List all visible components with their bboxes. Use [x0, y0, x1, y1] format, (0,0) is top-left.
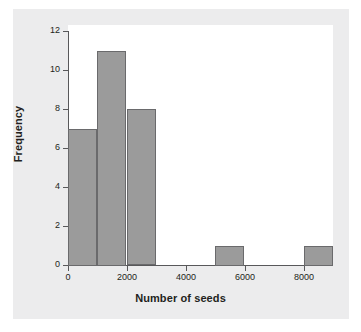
y-tick-mark: [63, 109, 68, 110]
x-axis-title: Number of seeds: [0, 292, 361, 304]
y-tick-label: 4: [55, 182, 60, 191]
y-tick-mark: [63, 70, 68, 71]
x-tick-mark: [68, 266, 69, 271]
y-tick-label: 8: [55, 104, 60, 113]
histogram-bar: [127, 109, 156, 265]
x-tick-label: 4000: [176, 273, 196, 282]
y-tick-label: 12: [50, 26, 60, 35]
y-tick-label: 10: [50, 65, 60, 74]
x-tick-label: 6000: [235, 273, 255, 282]
histogram-bar: [68, 129, 97, 266]
y-tick-label: 6: [55, 143, 60, 152]
x-tick-label: 2000: [117, 273, 137, 282]
x-tick-label: 0: [65, 273, 70, 282]
x-tick-mark: [304, 266, 305, 271]
x-tick-label: 8000: [294, 273, 314, 282]
x-tick-mark: [186, 266, 187, 271]
x-tick-mark: [245, 266, 246, 271]
histogram-bar: [215, 246, 244, 266]
y-tick-mark: [63, 31, 68, 32]
histogram-bar: [304, 246, 333, 266]
y-tick-label: 0: [55, 260, 60, 269]
x-tick-mark: [127, 266, 128, 271]
histogram-figure: 024681012 02000400060008000 Frequency Nu…: [0, 0, 361, 332]
y-axis-title: Frequency: [12, 84, 24, 184]
histogram-bar: [97, 51, 126, 266]
y-tick-label: 2: [55, 221, 60, 230]
